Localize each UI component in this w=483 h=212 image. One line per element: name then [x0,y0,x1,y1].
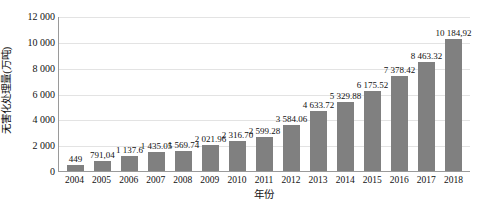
y-axis-tick-label: 2 000 [33,141,56,151]
bar-series: 449791,041 137.61 435.051 569.742 021.96… [59,17,470,171]
bar[interactable]: 6 175.52 [364,91,381,171]
x-axis-tick-label: 2010 [223,173,250,189]
bar[interactable]: 1 569.74 [175,151,192,171]
y-axis-tick-label: 10 000 [28,38,56,48]
bar-value-label: 791,04 [90,151,115,160]
y-axis-tick-label: 4 000 [33,115,56,125]
bar-slot: 2 599.28 [251,17,278,171]
x-axis-tick-label: 2018 [440,173,467,189]
y-axis-title-text: 无害化处理量(万吨) [2,47,13,134]
bar-slot: 791,04 [89,17,116,171]
bar[interactable]: 449 [67,165,84,171]
bar-value-label: 5 329.88 [330,92,362,101]
bar-slot: 2 021.96 [197,17,224,171]
bar[interactable]: 1 137.6 [121,156,138,171]
bar-value-label: 8 463.32 [411,52,443,61]
x-axis-tick-label: 2007 [142,173,169,189]
x-axis-tick-labels: 2004200520062007200820092010201120122013… [58,173,470,189]
y-axis-tick-label: 8 000 [33,64,56,74]
bar[interactable]: 1 435.05 [148,152,165,171]
x-axis-tick-label: 2013 [305,173,332,189]
x-axis-tick-label: 2015 [359,173,386,189]
bar[interactable]: 3 584.06 [283,125,300,171]
bar[interactable]: 10 184,92 [445,39,462,171]
bar-slot: 1 137.6 [116,17,143,171]
x-axis-tick-label: 2017 [413,173,440,189]
x-axis-tick-label: 2004 [61,173,88,189]
bar-value-label: 6 175.52 [357,81,389,90]
bar-slot: 2 316.70 [224,17,251,171]
x-axis-tick-label: 2005 [88,173,115,189]
x-axis-title: 年份 [58,190,470,201]
y-axis-tick-labels: 02 0004 0006 0008 00010 00012 000 [14,0,58,180]
y-axis-tick-label: 6 000 [33,90,56,100]
bar[interactable]: 2 316.70 [229,141,246,171]
bar[interactable]: 5 329.88 [337,102,354,171]
x-axis-tick-label: 2008 [169,173,196,189]
bar-slot: 1 435.05 [143,17,170,171]
bar-slot: 10 184,92 [440,17,467,171]
bar-value-label: 7 378.42 [384,66,416,75]
x-axis-tick-label: 2006 [115,173,142,189]
x-axis-tick-label: 2014 [332,173,359,189]
bar-slot: 3 584.06 [278,17,305,171]
bar-value-label: 3 584.06 [276,115,308,124]
x-axis-tick-label: 2012 [278,173,305,189]
x-axis-tick-label: 2009 [196,173,223,189]
bar-slot: 449 [62,17,89,171]
bar-value-label: 2 599.28 [249,127,281,136]
y-axis-tick-label: 0 [50,167,55,177]
bar-slot: 4 633.72 [305,17,332,171]
bar[interactable]: 4 633.72 [310,111,327,171]
bar[interactable]: 2 021.96 [202,145,219,171]
bar-slot: 7 378.42 [386,17,413,171]
x-axis-tick-label: 2016 [386,173,413,189]
y-axis-title: 无害化处理量(万吨) [0,0,14,180]
bar-slot: 1 569.74 [170,17,197,171]
bar[interactable]: 7 378.42 [391,76,408,171]
bar-slot: 8 463.32 [413,17,440,171]
bar-slot: 6 175.52 [359,17,386,171]
bar-value-label: 4 633.72 [303,101,335,110]
bar[interactable]: 791,04 [94,161,111,171]
bar-slot: 5 329.88 [332,17,359,171]
bar-chart: 无害化处理量(万吨) 02 0004 0006 0008 00010 00012… [0,0,483,212]
x-axis-tick-label: 2011 [250,173,277,189]
bar-value-label: 1 137.6 [116,146,143,155]
bar-value-label: 449 [69,155,83,164]
bar[interactable]: 2 599.28 [256,137,273,171]
bar[interactable]: 8 463.32 [418,62,435,171]
y-axis-tick-label: 12 000 [28,12,56,22]
plot-area: 449791,041 137.61 435.051 569.742 021.96… [58,17,470,172]
bar-value-label: 10 184,92 [435,29,471,38]
